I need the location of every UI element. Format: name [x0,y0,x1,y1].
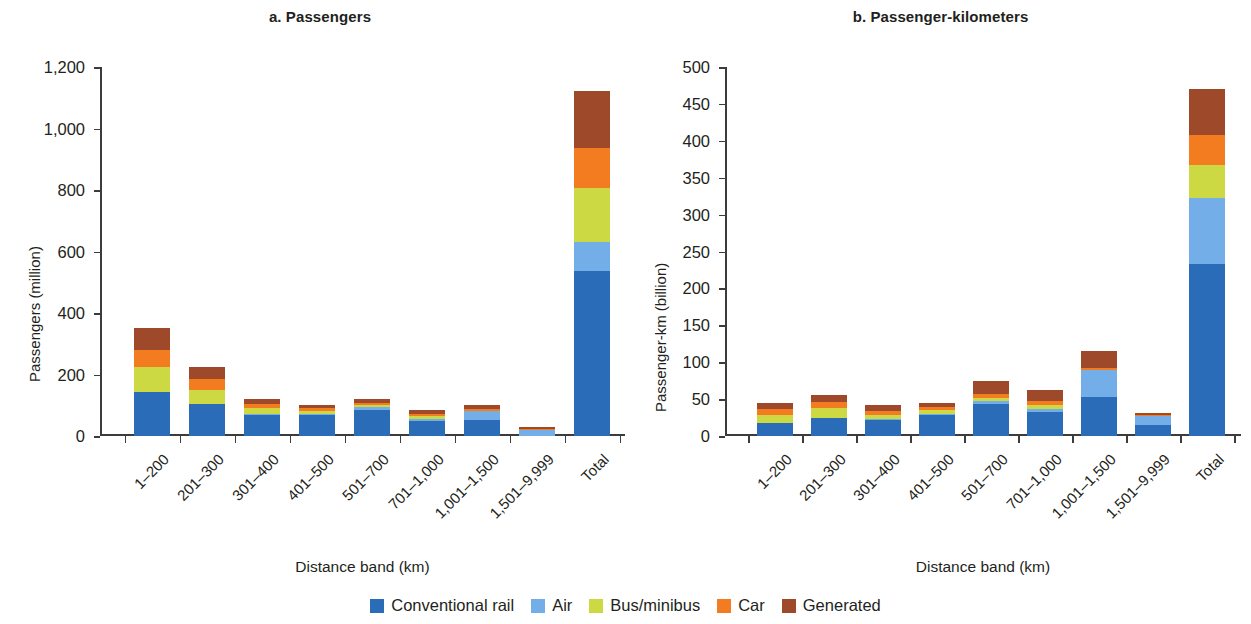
bar-segment[interactable] [189,367,225,378]
stacked-bar[interactable] [757,67,793,436]
bar-segment[interactable] [1189,165,1225,197]
bar-segment[interactable] [1027,412,1063,436]
bar-segment[interactable] [1027,405,1063,409]
bar-segment[interactable] [409,416,445,419]
bar-segment[interactable] [973,398,1009,401]
bar-segment[interactable] [244,399,280,404]
bar-segment[interactable] [1081,370,1117,397]
bar-segment[interactable] [811,395,847,402]
bar-segment[interactable] [865,415,901,419]
bar-segment[interactable] [574,271,610,436]
stacked-bar[interactable] [354,67,390,436]
stacked-bar[interactable] [865,67,901,436]
bar-segment[interactable] [973,404,1009,436]
bar-segment[interactable] [1135,413,1171,414]
legend-item[interactable]: Bus/minibus [589,596,700,615]
bar-segment[interactable] [244,404,280,408]
bar-segment[interactable] [865,419,901,420]
bar-segment[interactable] [354,405,390,407]
stacked-bar[interactable] [464,67,500,436]
bar-segment[interactable] [354,407,390,409]
bar-segment[interactable] [244,408,280,413]
bar-segment[interactable] [134,328,170,350]
bar-segment[interactable] [1189,198,1225,264]
legend-item[interactable]: Conventional rail [370,596,514,615]
bar-segment[interactable] [354,399,390,403]
stacked-bar[interactable] [299,67,335,436]
bar-segment[interactable] [919,415,955,436]
bar-segment[interactable] [134,350,170,367]
bar-segment[interactable] [811,408,847,418]
bar-segment[interactable] [189,390,225,404]
stacked-bar[interactable] [134,67,170,436]
bar-segment[interactable] [1027,390,1063,401]
bar-segment[interactable] [1081,368,1117,369]
bar-segment[interactable] [134,392,170,436]
stacked-bar[interactable] [1189,67,1225,436]
bar-segment[interactable] [299,415,335,436]
bar-segment[interactable] [1081,397,1117,436]
bar-segment[interactable] [409,410,445,413]
bar-segment[interactable] [973,394,1009,398]
bar-segment[interactable] [1135,425,1171,436]
bar-segment[interactable] [757,409,793,415]
bar-segment[interactable] [244,414,280,415]
bar-segment[interactable] [865,411,901,415]
bar-segment[interactable] [409,421,445,436]
bar-segment[interactable] [919,407,955,410]
stacked-bar[interactable] [811,67,847,436]
bar-segment[interactable] [464,409,500,411]
bar-segment[interactable] [464,420,500,436]
bar-segment[interactable] [1081,351,1117,368]
bar-segment[interactable] [574,91,610,148]
bar-segment[interactable] [574,148,610,189]
bar-segment[interactable] [973,381,1009,394]
legend-item[interactable]: Car [717,596,765,615]
bar-segment[interactable] [189,404,225,436]
bar-segment[interactable] [409,419,445,421]
bar-segment[interactable] [811,418,847,436]
stacked-bar[interactable] [1081,67,1117,436]
bar-segment[interactable] [299,414,335,415]
bar-segment[interactable] [134,367,170,393]
bar-segment[interactable] [244,414,280,436]
bar-segment[interactable] [757,403,793,410]
bar-segment[interactable] [811,402,847,408]
bar-segment[interactable] [919,403,955,407]
bar-segment[interactable] [189,379,225,390]
bar-segment[interactable] [519,429,555,430]
bar-segment[interactable] [1027,401,1063,405]
bar-segment[interactable] [757,415,793,423]
bar-segment[interactable] [574,242,610,271]
bar-segment[interactable] [519,427,555,428]
bar-segment[interactable] [299,411,335,414]
stacked-bar[interactable] [1027,67,1063,436]
bar-segment[interactable] [354,403,390,405]
bar-segment[interactable] [1189,264,1225,436]
bar-segment[interactable] [464,411,500,420]
bar-segment[interactable] [409,414,445,416]
stacked-bar[interactable] [409,67,445,436]
bar-segment[interactable] [519,429,555,436]
stacked-bar[interactable] [574,67,610,436]
bar-segment[interactable] [574,188,610,242]
bar-segment[interactable] [1135,415,1171,425]
bar-segment[interactable] [1189,135,1225,165]
stacked-bar[interactable] [973,67,1009,436]
stacked-bar[interactable] [1135,67,1171,436]
stacked-bar[interactable] [189,67,225,436]
bar-segment[interactable] [1027,409,1063,412]
bar-segment[interactable] [865,420,901,436]
stacked-bar[interactable] [244,67,280,436]
stacked-bar[interactable] [519,67,555,436]
bar-segment[interactable] [1189,89,1225,135]
bar-segment[interactable] [757,423,793,436]
bar-segment[interactable] [299,405,335,409]
bar-segment[interactable] [299,408,335,410]
bar-segment[interactable] [919,410,955,414]
legend-item[interactable]: Generated [782,596,881,615]
stacked-bar[interactable] [919,67,955,436]
bar-segment[interactable] [354,410,390,436]
bar-segment[interactable] [865,405,901,411]
bar-segment[interactable] [464,405,500,409]
